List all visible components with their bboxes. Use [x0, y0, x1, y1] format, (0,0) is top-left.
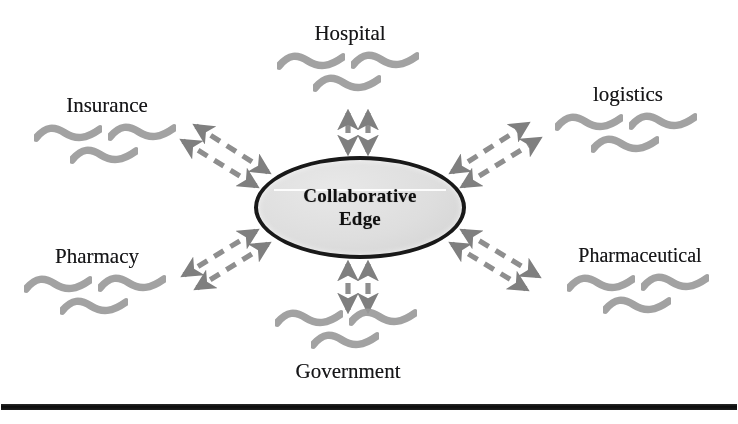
node-hospital[interactable]: Hospital [255, 22, 445, 100]
squiggle-icon [34, 122, 102, 146]
node-hospital-label: Hospital [255, 22, 445, 44]
squiggle-icon [349, 306, 417, 330]
squiggle-icon [567, 272, 635, 296]
hub-label-line-2: Edge [303, 208, 416, 230]
diagram-canvas: Collaborative Edge Hospital logistics Ph… [0, 0, 738, 424]
node-government[interactable]: Government [253, 305, 443, 382]
hub-ellipse-collaborative-edge[interactable]: Collaborative Edge [254, 156, 466, 259]
node-logistics[interactable]: logistics [533, 83, 723, 161]
squiggle-icon [591, 133, 659, 157]
node-logistics-squiggles [553, 109, 703, 161]
hub-label-line-1: Collaborative [303, 185, 416, 207]
connector-government [348, 264, 368, 310]
squiggle-icon [555, 111, 623, 135]
hub-label: Collaborative Edge [303, 185, 416, 230]
node-logistics-label: logistics [533, 83, 723, 105]
node-pharmacy-label: Pharmacy [2, 245, 192, 267]
node-insurance-label: Insurance [12, 94, 202, 116]
squiggle-icon [60, 295, 128, 319]
squiggle-icon [70, 144, 138, 168]
squiggle-icon [275, 307, 343, 331]
squiggle-icon [351, 49, 419, 73]
node-insurance[interactable]: Insurance [12, 94, 202, 172]
node-pharmacy-squiggles [22, 271, 172, 323]
squiggle-icon [629, 110, 697, 134]
squiggle-icon [311, 329, 379, 353]
squiggle-icon [24, 273, 92, 297]
node-hospital-squiggles [275, 48, 425, 100]
squiggle-icon [98, 272, 166, 296]
node-government-label: Government [253, 360, 443, 382]
squiggle-icon [313, 72, 381, 96]
connector-hospital [348, 113, 368, 152]
node-government-squiggles [273, 305, 423, 357]
squiggle-icon [108, 121, 176, 145]
squiggle-icon [641, 271, 709, 295]
connector-logistics [452, 124, 539, 186]
node-pharmaceutical[interactable]: Pharmaceutical [545, 245, 735, 322]
node-pharmaceutical-squiggles [565, 270, 715, 322]
connector-pharmaceutical [452, 231, 538, 289]
squiggle-icon [603, 294, 671, 318]
squiggle-icon [277, 50, 345, 74]
node-pharmaceutical-label: Pharmaceutical [545, 245, 735, 266]
bottom-horizontal-rule [1, 404, 737, 410]
node-pharmacy[interactable]: Pharmacy [2, 245, 192, 323]
node-insurance-squiggles [32, 120, 182, 172]
connector-pharmacy [184, 231, 268, 288]
